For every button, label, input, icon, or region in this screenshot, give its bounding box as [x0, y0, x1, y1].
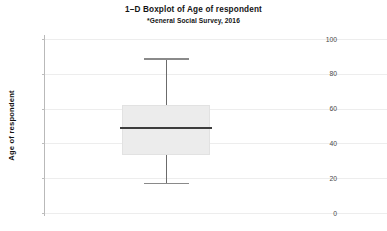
- y-tick-label: 100: [297, 36, 337, 43]
- upper-whisker-cap: [144, 58, 190, 59]
- plot-area: 020406080100: [45, 39, 387, 213]
- box-iqr-rect: [122, 105, 210, 155]
- y-tick-mark: [42, 39, 45, 40]
- y-tick-mark: [42, 74, 45, 75]
- chart-title: 1–D Boxplot of Age of respondent: [0, 4, 387, 15]
- y-tick-mark: [42, 109, 45, 110]
- lower-whisker-cap: [144, 183, 190, 184]
- y-tick-label: 40: [297, 140, 337, 147]
- y-tick-mark: [42, 213, 45, 214]
- y-tick-label: 60: [297, 105, 337, 112]
- y-tick-mark: [42, 143, 45, 144]
- y-tick-label: 20: [297, 175, 337, 182]
- boxplot-figure: 1–D Boxplot of Age of respondent *Genera…: [0, 0, 387, 231]
- y-tick-label: 80: [297, 70, 337, 77]
- upper-whisker-stem: [166, 58, 167, 105]
- median-line: [120, 127, 212, 129]
- y-tick-mark: [42, 178, 45, 179]
- title-block: 1–D Boxplot of Age of respondent *Genera…: [0, 4, 387, 26]
- y-axis-label: Age of respondent: [7, 90, 16, 160]
- y-axis-label-container: Age of respondent: [0, 36, 22, 214]
- lower-whisker-stem: [166, 155, 167, 183]
- y-tick-label: 0: [297, 210, 337, 217]
- chart-subtitle: *General Social Survey, 2016: [0, 16, 387, 26]
